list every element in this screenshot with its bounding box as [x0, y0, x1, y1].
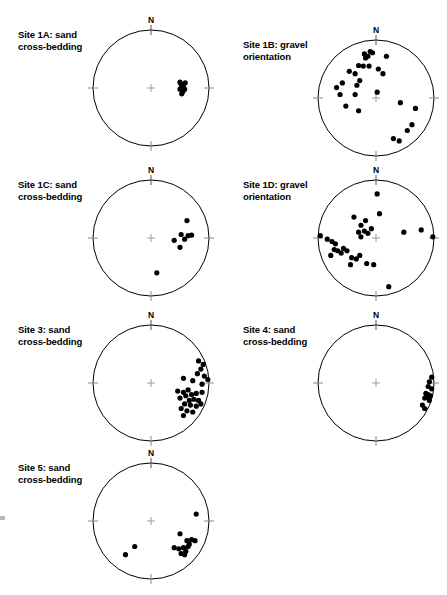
data-point — [172, 238, 177, 243]
data-point — [427, 398, 432, 403]
data-point — [358, 234, 363, 239]
data-point — [377, 211, 382, 216]
data-point — [182, 87, 187, 92]
data-point — [349, 255, 354, 260]
data-points — [177, 80, 187, 97]
caption-line-2: cross-bedding — [18, 336, 82, 348]
data-point — [430, 234, 435, 239]
panel-caption-1d: Site 1D: gravelorientation — [243, 179, 308, 202]
data-point — [427, 379, 432, 384]
data-point — [181, 376, 186, 381]
caption-line-1: Site 3: sand — [18, 324, 82, 336]
data-point — [328, 253, 333, 258]
panel-caption-1c: Site 1C: sandcross-bedding — [18, 179, 82, 202]
data-point — [198, 366, 203, 371]
data-point — [177, 80, 182, 85]
stereonet-panel-5: N — [71, 441, 231, 595]
data-point — [422, 406, 427, 411]
data-point — [405, 128, 410, 133]
data-point — [357, 253, 362, 258]
stereonet-plot-1c: N — [71, 158, 231, 318]
data-points — [123, 511, 199, 557]
stereonet-plot-1d: N — [296, 158, 447, 318]
data-point — [340, 80, 345, 85]
data-point — [376, 66, 381, 71]
caption-line-2: orientation — [243, 51, 308, 63]
data-point — [184, 218, 189, 223]
caption-line-2: cross-bedding — [18, 41, 82, 53]
stereonet-panel-3: N — [71, 303, 231, 463]
data-point — [397, 138, 402, 143]
data-points — [420, 375, 434, 412]
data-point — [341, 246, 346, 251]
data-point — [177, 531, 182, 536]
data-point — [194, 404, 199, 409]
data-point — [182, 401, 187, 406]
data-point — [192, 538, 197, 543]
stereonet-figure: NSite 1A: sandcross-beddingNSite 1B: gra… — [0, 0, 447, 595]
data-point — [422, 395, 427, 400]
data-point — [356, 63, 361, 68]
north-label: N — [148, 310, 154, 320]
data-point — [339, 250, 344, 255]
data-point — [198, 401, 203, 406]
data-points — [154, 218, 194, 275]
data-points — [175, 358, 210, 418]
stereonet-plot-5: N — [71, 441, 231, 595]
data-point — [391, 136, 396, 141]
data-point — [413, 106, 418, 111]
data-point — [357, 78, 362, 83]
data-point — [179, 91, 184, 96]
caption-line-1: Site 5: sand — [18, 462, 82, 474]
data-point — [354, 83, 359, 88]
data-point — [371, 262, 376, 267]
scan-artifact — [0, 516, 5, 520]
caption-line-1: Site 1B: gravel — [243, 39, 308, 51]
panel-caption-5: Site 5: sandcross-bedding — [18, 462, 82, 485]
data-point — [181, 413, 186, 418]
panel-caption-1b: Site 1B: gravelorientation — [243, 39, 308, 62]
data-point — [183, 80, 188, 85]
data-point — [429, 386, 434, 391]
data-point — [365, 231, 370, 236]
stereonet-panel-1c: N — [71, 158, 231, 318]
data-point — [343, 104, 348, 109]
north-label: N — [373, 310, 379, 320]
stereonet-panel-1a: N — [71, 8, 231, 168]
data-point — [369, 226, 374, 231]
stereonet-panel-1d: N — [296, 158, 447, 318]
north-label: N — [148, 165, 154, 175]
caption-line-1: Site 1A: sand — [18, 29, 82, 41]
data-point — [179, 551, 184, 556]
data-point — [366, 64, 371, 69]
caption-line-1: Site 4: sand — [243, 324, 307, 336]
data-point — [325, 237, 330, 242]
data-point — [375, 90, 380, 95]
data-point — [191, 397, 196, 402]
data-point — [347, 69, 352, 74]
data-point — [419, 227, 424, 232]
data-points — [318, 191, 436, 289]
data-point — [132, 544, 137, 549]
north-label: N — [373, 25, 379, 35]
data-point — [190, 378, 195, 383]
data-point — [353, 71, 358, 76]
stereonet-panel-1b: N — [296, 18, 447, 178]
panel-caption-1a: Site 1A: sandcross-bedding — [18, 29, 82, 52]
caption-line-2: cross-bedding — [243, 336, 307, 348]
data-point — [356, 108, 361, 113]
data-point — [386, 284, 391, 289]
data-point — [337, 92, 342, 97]
data-point — [179, 406, 184, 411]
data-point — [333, 241, 338, 246]
stereonet-plot-1b: N — [296, 18, 447, 178]
caption-line-2: cross-bedding — [18, 191, 82, 203]
stereonet-plot-3: N — [71, 303, 231, 463]
stereonet-panel-4: N — [296, 303, 447, 463]
caption-line-1: Site 1D: gravel — [243, 179, 308, 191]
data-point — [370, 50, 375, 55]
data-point — [176, 546, 181, 551]
data-point — [348, 262, 353, 267]
panel-caption-3: Site 3: sandcross-bedding — [18, 324, 82, 347]
caption-line-2: orientation — [243, 191, 308, 203]
